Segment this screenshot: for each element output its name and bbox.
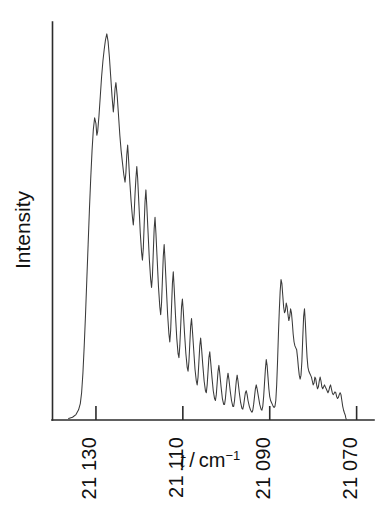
plot-area (69, 34, 347, 419)
axes (52, 22, 374, 420)
x-axis-ticks (96, 406, 357, 420)
spectrum-figure: 21 13021 11021 09021 070 ṭ / cm−1 Intens… (0, 0, 391, 524)
x-axis-tick-label: 21 090 (252, 437, 274, 499)
x-axis-title: ṭ / cm−1 (180, 448, 241, 471)
y-axis-title: Intensity (11, 190, 34, 269)
spectrum-trace (69, 34, 347, 419)
x-axis-tick-label: 21 130 (78, 437, 100, 499)
x-axis-tick-label: 21 070 (339, 437, 361, 499)
